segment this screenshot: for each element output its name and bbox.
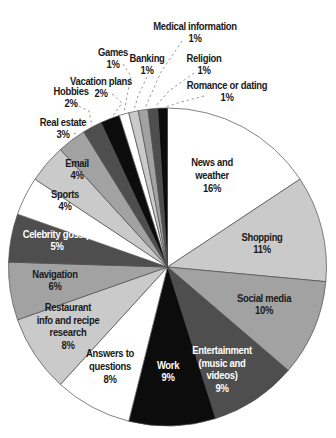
leader-line-banking — [134, 77, 147, 110]
slice-label-romance-or-dating: Romance or dating1% — [187, 79, 268, 104]
slice-label-hobbies: Hobbies2% — [53, 85, 89, 110]
leader-line-vacation-plans — [112, 94, 122, 117]
pie-svg: News andweather16%Shopping11%Social medi… — [0, 0, 336, 438]
pie-chart-figure: News andweather16%Shopping11%Social medi… — [0, 0, 336, 438]
slice-label-games: Games1% — [98, 46, 129, 71]
leader-line-romance-or-dating — [165, 96, 204, 107]
slice-label-religion: Religion1% — [187, 52, 222, 77]
slice-label-banking: Banking1% — [129, 52, 164, 77]
slice-label-medical-information: Medical information1% — [153, 20, 237, 45]
leader-line-games — [123, 64, 131, 112]
